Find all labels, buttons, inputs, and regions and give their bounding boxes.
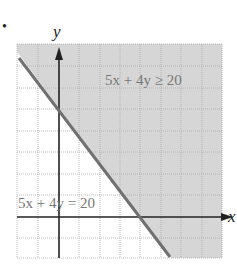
y-axis-label: y [51,22,61,41]
inequality-label: 5x + 4y ≥ 20 [105,72,182,88]
x-axis-label: x [227,207,236,226]
boundary-equation-label: 5x + 4y = 20 [18,195,95,211]
inequality-graph: y x 5x + 4y ≥ 20 5x + 4y = 20 [0,0,237,278]
